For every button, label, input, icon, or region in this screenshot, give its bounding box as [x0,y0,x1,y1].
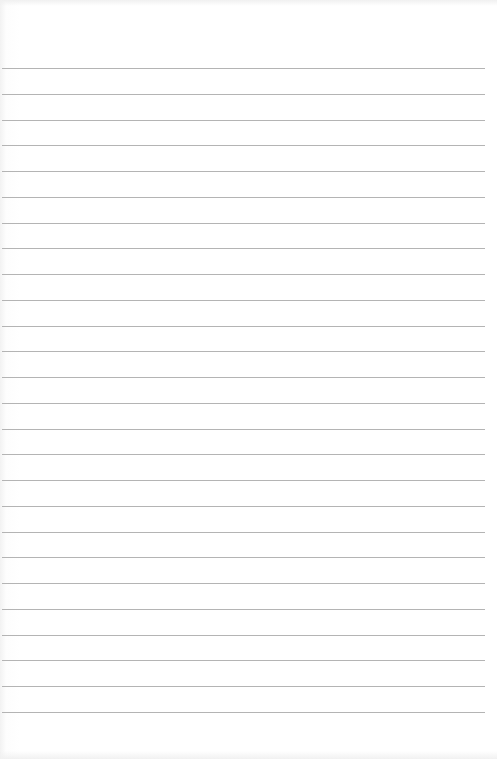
bottom-edge-shadow [0,751,497,759]
ruled-line [2,403,485,404]
ruled-line [2,583,485,584]
ruled-line [2,480,485,481]
ruled-line [2,248,485,249]
ruled-line [2,351,485,352]
ruled-line [2,660,485,661]
ruled-line [2,557,485,558]
ruled-line [2,429,485,430]
ruled-line [2,197,485,198]
ruled-line [2,171,485,172]
ruled-line [2,686,485,687]
top-edge-shadow [0,0,497,6]
ruled-line [2,120,485,121]
ruled-line [2,635,485,636]
ruled-line [2,506,485,507]
ruled-line [2,300,485,301]
ruled-line [2,532,485,533]
ruled-paper-page [0,0,497,759]
ruled-line [2,223,485,224]
ruled-line [2,274,485,275]
ruled-line [2,609,485,610]
ruled-line [2,94,485,95]
ruled-line [2,68,485,69]
ruled-line [2,326,485,327]
ruled-line [2,145,485,146]
ruled-line [2,377,485,378]
ruled-line [2,712,485,713]
ruled-line [2,454,485,455]
